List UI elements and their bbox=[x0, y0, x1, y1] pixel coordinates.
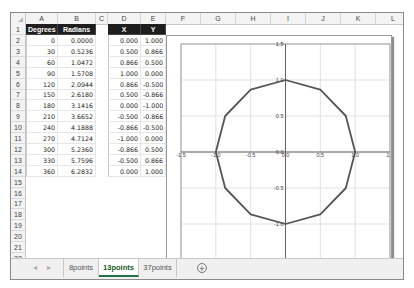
row-header-9[interactable]: 9 bbox=[11, 111, 25, 122]
header-cell-x[interactable]: X bbox=[108, 24, 141, 35]
column-header-k[interactable]: K bbox=[341, 13, 376, 24]
table-cell[interactable]: 30 bbox=[26, 46, 58, 57]
header-cell-radians[interactable]: Radians bbox=[58, 24, 96, 35]
column-header-c[interactable]: C bbox=[96, 13, 108, 24]
table-cell[interactable]: -0.866 bbox=[141, 89, 166, 100]
header-cell-y[interactable]: Y bbox=[141, 24, 166, 35]
column-header-d[interactable]: D bbox=[108, 13, 141, 24]
table-cell[interactable]: -0.866 bbox=[108, 144, 141, 155]
table-cell[interactable]: -1.000 bbox=[141, 100, 166, 111]
row-header-11[interactable]: 11 bbox=[11, 133, 25, 144]
table-cell[interactable]: 4.1888 bbox=[58, 122, 96, 133]
table-cell[interactable]: 0.000 bbox=[141, 68, 166, 79]
scatter-chart[interactable]: -1.5-1.0-0.50.00.51.01.51.51.00.50.0-0.5… bbox=[166, 35, 392, 263]
row-header-17[interactable]: 17 bbox=[11, 198, 25, 209]
table-cell[interactable]: 2.6180 bbox=[58, 89, 96, 100]
column-header-b[interactable]: B bbox=[58, 13, 96, 24]
table-cell[interactable]: 210 bbox=[26, 111, 58, 122]
table-cell[interactable]: 2.0944 bbox=[58, 79, 96, 90]
table-cell[interactable]: 5.2360 bbox=[58, 144, 96, 155]
row-header-3[interactable]: 3 bbox=[11, 46, 25, 57]
column-header-h[interactable]: H bbox=[236, 13, 271, 24]
table-cell[interactable]: 3.6652 bbox=[58, 111, 96, 122]
table-cell[interactable]: 240 bbox=[26, 122, 58, 133]
table-cell[interactable]: -0.500 bbox=[141, 122, 166, 133]
scroll-tabs-left-button[interactable]: ◂ bbox=[29, 259, 41, 277]
row-header-12[interactable]: 12 bbox=[11, 144, 25, 155]
row-header-1[interactable]: 1 bbox=[11, 24, 25, 35]
sheet-tab-13points[interactable]: 13points bbox=[99, 259, 139, 277]
table-cell[interactable]: 1.000 bbox=[108, 68, 141, 79]
table-cell[interactable]: 0.000 bbox=[141, 133, 166, 144]
table-cell[interactable]: 330 bbox=[26, 155, 58, 166]
row-header-21[interactable]: 21 bbox=[11, 242, 25, 253]
table-cell[interactable]: 120 bbox=[26, 79, 58, 90]
header-cell-degrees[interactable]: Degrees bbox=[26, 24, 58, 35]
row-header-18[interactable]: 18 bbox=[11, 209, 25, 220]
table-cell[interactable]: 300 bbox=[26, 144, 58, 155]
table-cell[interactable]: 1.000 bbox=[141, 35, 166, 46]
table-cell[interactable]: 0.5236 bbox=[58, 46, 96, 57]
table-cell[interactable]: 5.7596 bbox=[58, 155, 96, 166]
table-cell[interactable]: 90 bbox=[26, 68, 58, 79]
table-cell[interactable]: 180 bbox=[26, 100, 58, 111]
y-tick-label: -0.5 bbox=[274, 185, 283, 191]
row-header-13[interactable]: 13 bbox=[11, 155, 25, 166]
sheet-tab-37points[interactable]: 37points bbox=[139, 259, 177, 277]
column-header-g[interactable]: G bbox=[201, 13, 236, 24]
table-cell[interactable]: -1.000 bbox=[108, 133, 141, 144]
table-cell[interactable]: 0.866 bbox=[108, 57, 141, 68]
table-cell[interactable]: -0.500 bbox=[141, 79, 166, 90]
row-header-19[interactable]: 19 bbox=[11, 220, 25, 231]
table-cell[interactable]: 1.0472 bbox=[58, 57, 96, 68]
column-header-j[interactable]: J bbox=[306, 13, 341, 24]
table-cell[interactable]: -0.500 bbox=[108, 111, 141, 122]
table-cell[interactable]: 0.500 bbox=[141, 57, 166, 68]
sheet-tab-8points[interactable]: 8points bbox=[63, 259, 99, 277]
scroll-tabs-right-button[interactable]: ▸ bbox=[43, 259, 55, 277]
table-cell[interactable]: 0.000 bbox=[108, 35, 141, 46]
table-cell[interactable]: 0.866 bbox=[141, 155, 166, 166]
table-cell[interactable]: 270 bbox=[26, 133, 58, 144]
row-header-8[interactable]: 8 bbox=[11, 100, 25, 111]
table-cell[interactable]: 0.500 bbox=[141, 144, 166, 155]
table-cell[interactable]: 0.866 bbox=[141, 46, 166, 57]
table-cell[interactable]: 0.866 bbox=[108, 79, 141, 90]
table-cell[interactable]: 1.000 bbox=[141, 166, 166, 177]
column-header-e[interactable]: E bbox=[141, 13, 166, 24]
table-cell[interactable]: 0.500 bbox=[108, 89, 141, 100]
table-cell[interactable]: 0.000 bbox=[108, 100, 141, 111]
y-tick-label: 0.0 bbox=[276, 149, 284, 155]
table-cell[interactable]: 0 bbox=[26, 35, 58, 46]
table-cell[interactable]: 4.7124 bbox=[58, 133, 96, 144]
table-cell[interactable]: -0.500 bbox=[108, 155, 141, 166]
column-header-a[interactable]: A bbox=[26, 13, 58, 24]
sheet-tab-bar: ◂ ▸ 8points 13points 37points + bbox=[11, 258, 403, 279]
table-cell[interactable]: -0.866 bbox=[108, 122, 141, 133]
table-cell[interactable]: 60 bbox=[26, 57, 58, 68]
row-header-5[interactable]: 5 bbox=[11, 68, 25, 79]
table-cell[interactable]: 6.2832 bbox=[58, 166, 96, 177]
row-header-16[interactable]: 16 bbox=[11, 188, 25, 199]
column-header-l[interactable]: L bbox=[376, 13, 404, 24]
row-header-10[interactable]: 10 bbox=[11, 122, 25, 133]
row-header-20[interactable]: 20 bbox=[11, 231, 25, 242]
table-cell[interactable]: 1.5708 bbox=[58, 68, 96, 79]
table-cell[interactable]: 150 bbox=[26, 89, 58, 100]
row-header-6[interactable]: 6 bbox=[11, 79, 25, 90]
row-header-15[interactable]: 15 bbox=[11, 177, 25, 188]
column-header-i[interactable]: I bbox=[271, 13, 306, 24]
table-cell[interactable]: 0.000 bbox=[108, 166, 141, 177]
table-cell[interactable]: 360 bbox=[26, 166, 58, 177]
table-cell[interactable]: 0.500 bbox=[108, 46, 141, 57]
column-header-f[interactable]: F bbox=[166, 13, 201, 24]
row-header-7[interactable]: 7 bbox=[11, 89, 25, 100]
table-cell[interactable]: 0.0000 bbox=[58, 35, 96, 46]
add-sheet-button[interactable]: + bbox=[197, 263, 207, 273]
select-all-corner[interactable] bbox=[11, 13, 26, 24]
row-header-4[interactable]: 4 bbox=[11, 57, 25, 68]
row-header-2[interactable]: 2 bbox=[11, 35, 25, 46]
row-header-14[interactable]: 14 bbox=[11, 166, 25, 177]
table-cell[interactable]: -0.866 bbox=[141, 111, 166, 122]
table-cell[interactable]: 3.1416 bbox=[58, 100, 96, 111]
